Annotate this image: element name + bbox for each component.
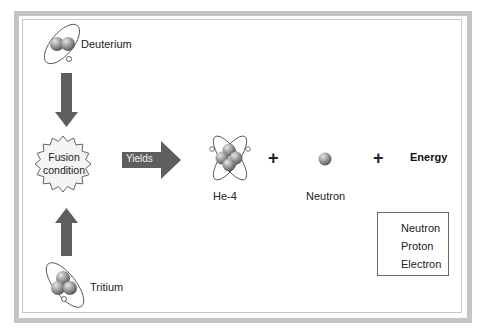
up-arrow-icon bbox=[55, 208, 78, 256]
legend-electron-label: Electron bbox=[401, 258, 441, 270]
legend-item-neutron: Neutron bbox=[378, 220, 448, 238]
fusion-condition-line2: condition bbox=[38, 164, 90, 177]
plus-sign-1: + bbox=[268, 148, 279, 169]
he4-label: He-4 bbox=[213, 190, 237, 202]
deuterium-atom-icon bbox=[38, 19, 86, 70]
legend-proton-label: Proton bbox=[401, 240, 433, 252]
legend-neutron-label: Neutron bbox=[401, 222, 440, 234]
deuterium-label: Deuterium bbox=[81, 38, 132, 50]
tritium-atom-icon bbox=[40, 257, 91, 313]
legend-box: Neutron Proton Electron bbox=[377, 212, 449, 276]
yields-label: Yields bbox=[126, 153, 153, 164]
plus-sign-2: + bbox=[373, 148, 384, 169]
energy-label: Energy bbox=[410, 151, 447, 163]
legend-item-electron: Electron bbox=[378, 256, 448, 274]
down-arrow-icon bbox=[55, 73, 78, 127]
legend-item-proton: Proton bbox=[378, 238, 448, 256]
he4-atom-icon bbox=[208, 132, 253, 185]
neutron-sphere-icon bbox=[319, 153, 332, 166]
fusion-condition-line1: Fusion bbox=[38, 151, 90, 164]
fusion-condition-label: Fusion condition bbox=[38, 151, 90, 177]
neutron-label: Neutron bbox=[306, 190, 345, 202]
tritium-label: Tritium bbox=[90, 281, 123, 293]
